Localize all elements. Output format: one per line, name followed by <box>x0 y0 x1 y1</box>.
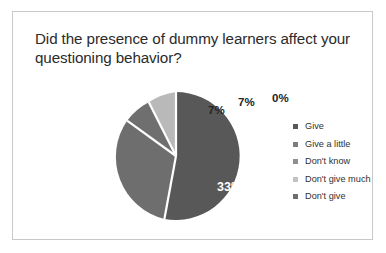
legend-label: Give a little <box>305 140 350 149</box>
slide-frame: Did the presence of dummy learners affec… <box>12 11 373 240</box>
legend-swatch-icon <box>293 159 298 164</box>
pie-label-give-a-little: 0% <box>272 92 289 104</box>
slide-canvas: Did the presence of dummy learners affec… <box>0 0 386 253</box>
legend-label: Don't know <box>305 157 350 166</box>
legend-swatch-icon <box>293 142 298 147</box>
legend-item-dont-know: Don't know <box>293 153 386 171</box>
legend-label: Don't give <box>305 192 346 201</box>
legend-item-dont-give-much: Don't give much <box>293 171 386 189</box>
legend-swatch-icon <box>293 177 298 182</box>
legend-item-give-a-little: Give a little <box>293 136 386 154</box>
page-title: Did the presence of dummy learners affec… <box>35 29 365 67</box>
chart-legend: Give Give a little Don't know Don't give… <box>293 118 386 206</box>
pie-chart: 0% 7% 7% 33% 53% Give Give a little Don'… <box>25 74 386 252</box>
legend-item-dont-give: Don't give <box>293 188 386 206</box>
legend-swatch-icon <box>293 194 298 199</box>
pie-graphic: 0% 7% 7% 33% 53% <box>110 90 242 222</box>
legend-swatch-icon <box>293 124 298 129</box>
legend-item-give: Give <box>293 118 386 136</box>
legend-label: Don't give much <box>305 175 371 184</box>
pie-label-dont-give-much: 7% <box>238 96 255 108</box>
pie-label-dont-know: 7% <box>208 104 225 116</box>
pie-label-dont-give: 33% <box>217 180 242 194</box>
legend-label: Give <box>305 122 324 131</box>
